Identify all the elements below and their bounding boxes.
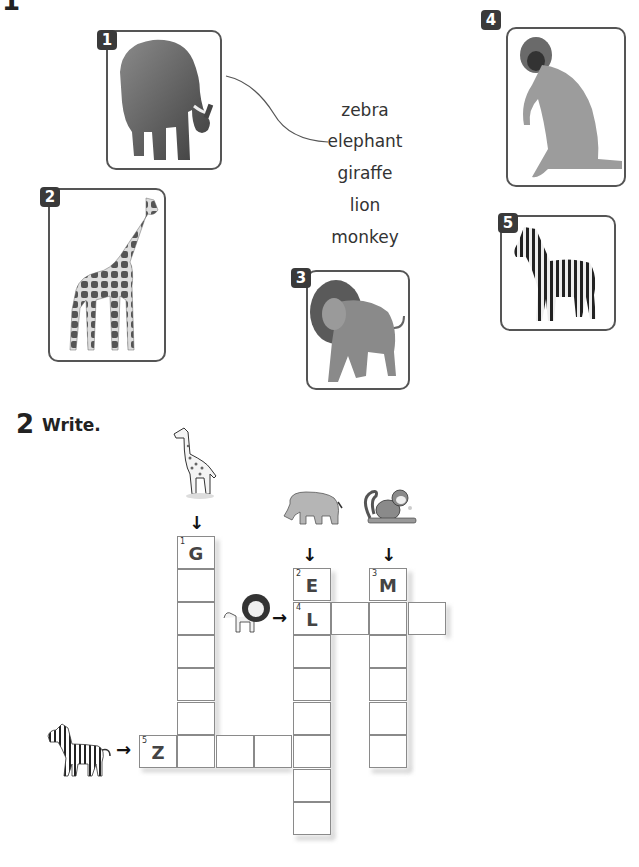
crossword-cell[interactable] — [293, 735, 331, 768]
lion-clipart — [222, 592, 272, 636]
giraffe-photo — [50, 190, 164, 360]
badge-3: 3 — [291, 268, 311, 288]
word-giraffe[interactable]: giraffe — [295, 163, 435, 183]
word-monkey[interactable]: monkey — [295, 227, 435, 247]
arrow-down-monkey: ↓ — [381, 546, 396, 564]
given-letter: Z — [140, 742, 176, 763]
grid-shadow — [372, 769, 410, 773]
crossword-cell[interactable] — [293, 702, 331, 735]
crossword-cell-2down-1[interactable]: 2 E — [293, 568, 331, 601]
arrow-right-zebra: → — [116, 741, 131, 759]
card-elephant — [106, 30, 222, 170]
crossword-cell[interactable] — [293, 802, 331, 835]
section-1-number: 1 — [2, 0, 20, 16]
badge-5: 5 — [498, 213, 518, 233]
crossword-cell[interactable] — [331, 602, 369, 635]
crossword-cell[interactable] — [216, 735, 254, 768]
arrow-down-elephant: ↓ — [302, 546, 317, 564]
elephant-photo — [108, 32, 220, 168]
crossword-cell[interactable] — [293, 769, 331, 802]
crossword-cell[interactable] — [177, 702, 215, 735]
elephant-clipart — [282, 490, 344, 526]
crossword-cell-4across-1[interactable]: 4 L — [293, 602, 331, 635]
crossword-cell[interactable] — [177, 569, 215, 602]
crossword-cell[interactable] — [177, 668, 215, 701]
crossword-cell[interactable] — [177, 602, 215, 635]
card-monkey — [506, 27, 626, 187]
crossword-cell[interactable] — [369, 602, 407, 635]
card-giraffe — [48, 188, 166, 362]
grid-shadow — [142, 768, 292, 772]
badge-1: 1 — [97, 30, 117, 50]
monkey-photo — [508, 29, 624, 185]
card-zebra — [500, 215, 616, 331]
grid-shadow — [215, 540, 219, 738]
card-lion — [306, 270, 410, 390]
lion-photo — [308, 272, 408, 388]
section-2-number: 2 — [16, 409, 34, 439]
crossword-cell[interactable] — [293, 635, 331, 668]
given-letter: L — [294, 609, 330, 630]
crossword-cell-3down-1[interactable]: 3 M — [369, 568, 407, 601]
given-letter: E — [294, 575, 330, 596]
crossword-cell-1down-1[interactable]: 1 G — [177, 536, 215, 569]
zebra-clipart — [44, 722, 114, 778]
arrow-right-lion: → — [272, 609, 287, 627]
section-2-title: Write. — [42, 415, 101, 435]
monkey-clipart — [360, 488, 418, 530]
badge-4: 4 — [481, 10, 501, 30]
badge-2: 2 — [40, 187, 60, 207]
crossword-cell[interactable] — [369, 702, 407, 735]
given-letter: M — [370, 575, 406, 596]
crossword-cell[interactable] — [369, 668, 407, 701]
word-lion[interactable]: lion — [295, 195, 435, 215]
zebra-photo — [502, 217, 614, 329]
crossword-cell[interactable] — [369, 635, 407, 668]
crossword-cell[interactable] — [293, 668, 331, 701]
word-elephant[interactable]: elephant — [295, 131, 435, 151]
given-letter: G — [178, 543, 214, 564]
crossword-cell[interactable] — [408, 602, 446, 635]
crossword-cell-5across-1[interactable]: 5 Z — [139, 735, 177, 768]
arrow-down-giraffe: ↓ — [189, 514, 204, 532]
crossword-cell[interactable] — [254, 735, 292, 768]
giraffe-clipart — [170, 424, 222, 500]
crossword-cell[interactable] — [177, 735, 215, 768]
grid-shadow — [296, 836, 334, 840]
grid-shadow — [446, 606, 450, 638]
crossword-cell[interactable] — [369, 735, 407, 768]
word-zebra[interactable]: zebra — [295, 100, 435, 120]
crossword-cell[interactable] — [177, 635, 215, 668]
